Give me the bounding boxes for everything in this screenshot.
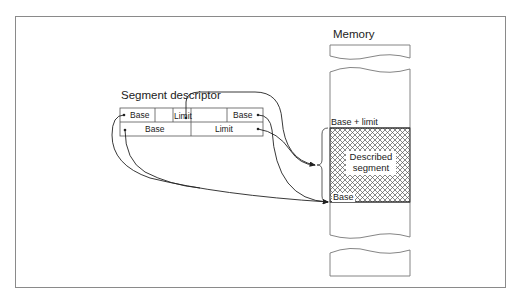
diagram-canvas	[0, 0, 522, 298]
segment-brace	[317, 128, 328, 202]
descriptor-row1-base-right: Base	[233, 111, 252, 120]
base-plus-limit-marker: Base + limit	[331, 118, 378, 127]
memory-label: Memory	[333, 29, 375, 41]
descriptor-row1-base-left: Base	[130, 111, 149, 120]
descriptor-row2-base: Base	[145, 125, 164, 134]
described-segment-label: Described segment	[346, 151, 396, 175]
descriptor-row2-limit: Limit	[215, 125, 233, 134]
base-marker: Base	[332, 193, 355, 202]
segment-descriptor-label: Segment descriptor	[121, 90, 221, 102]
descriptor-row1-limit: Limit	[174, 112, 192, 121]
